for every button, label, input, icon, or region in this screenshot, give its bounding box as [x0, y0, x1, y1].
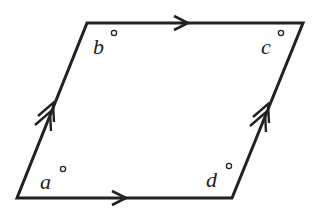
- angle-d-label: d: [206, 167, 218, 192]
- parallelogram-diagram: a b c d: [0, 0, 313, 220]
- angle-b-degree-icon: [111, 30, 116, 35]
- angle-c-label: c: [261, 34, 271, 59]
- angle-a-label: a: [40, 169, 51, 194]
- angle-c-degree-icon: [278, 30, 283, 35]
- angle-a-degree-icon: [60, 166, 65, 171]
- angle-d-degree-icon: [226, 163, 231, 168]
- angle-b-label: b: [93, 34, 104, 59]
